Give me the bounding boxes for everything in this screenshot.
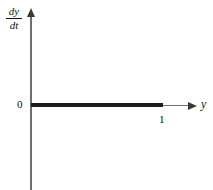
y-axis-line <box>30 14 32 190</box>
y-axis-arrowhead-icon <box>27 8 35 17</box>
figure-canvas: dy dt y 0 1 <box>0 0 213 190</box>
equilibrium-line-segment <box>31 103 163 107</box>
y-axis-label-denominator: dt <box>9 19 20 31</box>
tick-label-origin: 0 <box>17 99 23 110</box>
y-axis-label: dy dt <box>6 6 22 31</box>
y-axis-label-numerator: dy <box>8 6 20 18</box>
tick-label-one: 1 <box>159 114 165 125</box>
x-axis-arrowhead-icon <box>188 102 197 110</box>
x-axis-label: y <box>201 98 206 110</box>
